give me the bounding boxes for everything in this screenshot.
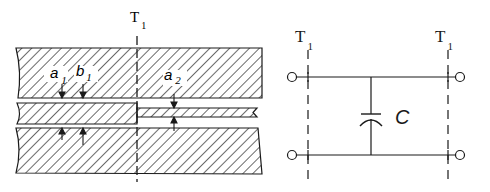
middle-slab-left (17, 103, 137, 124)
middle-slab-right (137, 108, 257, 117)
label-t1-in: T1 (295, 27, 313, 52)
terminal-bottom-left (288, 151, 297, 160)
terminal-bottom-right (456, 151, 465, 160)
capacitor-icon (360, 77, 382, 155)
bottom-slab (16, 128, 262, 174)
cross-section: a1 b1 a2 T1 (16, 9, 262, 182)
label-t1-out: T1 (435, 27, 453, 52)
label-t1-left: T1 (130, 9, 146, 31)
label-capacitor: C (395, 106, 410, 128)
diagram-canvas: a1 b1 a2 T1 (0, 0, 490, 192)
terminal-top-right (456, 73, 465, 82)
terminal-top-left (288, 73, 297, 82)
equivalent-circuit (288, 50, 465, 180)
